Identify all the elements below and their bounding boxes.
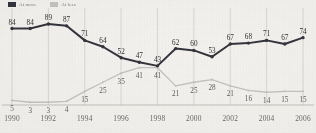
- data-point[interactable]: [102, 81, 104, 83]
- data-point[interactable]: [84, 90, 86, 92]
- gridlines: [12, 8, 316, 105]
- data-label: 87: [63, 16, 71, 24]
- x-axis-tick-label: 2006: [295, 114, 311, 123]
- data-label: 84: [8, 19, 16, 27]
- data-label: 53: [208, 47, 216, 55]
- data-point[interactable]: [193, 81, 195, 83]
- data-point[interactable]: [83, 39, 86, 42]
- data-label: 67: [281, 34, 289, 42]
- data-point[interactable]: [265, 39, 268, 42]
- data-label: 84: [27, 19, 35, 27]
- x-axis-tick-label: 1994: [77, 114, 93, 123]
- data-label: 41: [136, 72, 144, 80]
- data-point[interactable]: [138, 67, 140, 69]
- data-point[interactable]: [247, 41, 250, 44]
- data-point[interactable]: [156, 64, 159, 67]
- data-label: 25: [99, 87, 107, 95]
- data-point[interactable]: [229, 42, 232, 45]
- legend-item-at-more[interactable]: At more: [8, 2, 36, 7]
- data-label: 47: [136, 52, 144, 60]
- data-point[interactable]: [192, 49, 195, 52]
- data-labels-at-less: 533415253541412125282116141515: [10, 72, 307, 115]
- data-point[interactable]: [11, 99, 13, 101]
- data-label: 28: [208, 84, 216, 92]
- data-point[interactable]: [211, 79, 213, 81]
- data-point[interactable]: [47, 101, 49, 103]
- data-label: 15: [281, 96, 289, 104]
- x-axis-tick-label: 2000: [186, 114, 202, 123]
- data-label: 15: [81, 96, 89, 104]
- x-axis-tick-label: 1996: [113, 114, 129, 123]
- legend-swatch-light-icon: [50, 2, 58, 7]
- data-label: 35: [118, 78, 126, 86]
- data-point[interactable]: [284, 90, 286, 92]
- data-label: 43: [154, 56, 162, 64]
- plot-area: 533415253541412125282116141515 848489877…: [0, 8, 316, 110]
- data-point[interactable]: [120, 72, 122, 74]
- data-point[interactable]: [119, 56, 122, 59]
- x-axis: 1990199219941996199820002002200420062008: [0, 110, 316, 133]
- data-point[interactable]: [10, 27, 13, 30]
- data-label: 21: [227, 90, 235, 98]
- data-label: 74: [299, 28, 307, 36]
- plot-svg: 533415253541412125282116141515 848489877…: [0, 8, 316, 110]
- x-axis-tick-label: 2002: [222, 114, 238, 123]
- data-point[interactable]: [65, 24, 68, 27]
- data-point[interactable]: [28, 27, 31, 30]
- data-point[interactable]: [301, 36, 304, 39]
- data-label: 67: [227, 34, 235, 42]
- data-point[interactable]: [266, 91, 268, 93]
- data-label: 62: [172, 39, 180, 47]
- data-point[interactable]: [174, 47, 177, 50]
- data-label: 21: [172, 90, 180, 98]
- data-point[interactable]: [229, 85, 231, 87]
- data-point[interactable]: [66, 100, 68, 102]
- data-label: 41: [154, 72, 162, 80]
- data-label: 16: [245, 95, 253, 103]
- legend-item-at-less[interactable]: At less: [50, 2, 75, 7]
- data-label: 60: [190, 40, 198, 48]
- data-label: 15: [299, 96, 307, 104]
- legend-label-at-more: At more: [19, 2, 36, 7]
- data-point[interactable]: [47, 22, 50, 25]
- data-label: 68: [245, 33, 253, 41]
- data-point[interactable]: [138, 61, 141, 64]
- chart-legend: At more At less: [8, 0, 76, 8]
- line-chart: At more At less 533415253541412125282116…: [0, 0, 316, 133]
- data-label: 25: [190, 87, 198, 95]
- x-axis-tick-label: 2004: [259, 114, 275, 123]
- data-point[interactable]: [29, 101, 31, 103]
- data-point[interactable]: [101, 45, 104, 48]
- x-axis-tick-label: 1990: [4, 114, 20, 123]
- data-label: 64: [99, 37, 107, 45]
- legend-swatch-dark-icon: [8, 2, 16, 7]
- x-axis-tick-label: 1992: [41, 114, 57, 123]
- data-label: 71: [263, 30, 271, 38]
- data-point[interactable]: [175, 85, 177, 87]
- data-point[interactable]: [302, 90, 304, 92]
- data-point[interactable]: [247, 89, 249, 91]
- legend-label-at-less: At less: [61, 2, 75, 7]
- data-label: 52: [118, 48, 126, 56]
- x-axis-tick-label: 1998: [150, 114, 166, 123]
- data-point[interactable]: [210, 55, 213, 58]
- data-point[interactable]: [283, 42, 286, 45]
- data-label: 71: [81, 30, 89, 38]
- data-label: 14: [263, 97, 271, 105]
- data-label: 89: [45, 14, 53, 22]
